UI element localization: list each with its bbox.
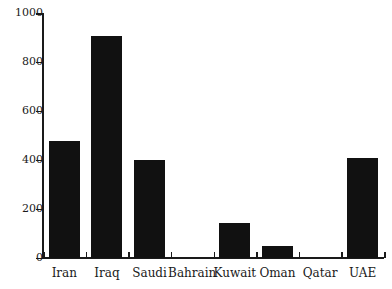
x-tick-mark	[341, 252, 343, 258]
y-axis-line	[42, 13, 44, 258]
y-tick-mark	[36, 62, 43, 64]
x-tick-label-iraq: Iraq	[94, 266, 119, 280]
x-tick-mark	[43, 252, 45, 258]
x-tick-mark	[214, 252, 216, 258]
x-tick-label-iran: Iran	[52, 266, 77, 280]
x-tick-label-kuwait: Kuwait	[214, 266, 257, 280]
y-tick-mark	[36, 111, 43, 113]
x-tick-label-uae: UAE	[349, 266, 376, 280]
bar-oman	[262, 246, 293, 258]
bar-iraq	[91, 36, 122, 258]
y-tick-mark	[36, 209, 43, 211]
x-tick-mark	[384, 252, 386, 258]
bar-chart: 02004006008001000 IranIraqSaudiBahrainKu…	[0, 0, 392, 289]
x-tick-mark	[256, 252, 258, 258]
bar-uae	[347, 158, 378, 258]
x-tick-label-qatar: Qatar	[303, 266, 338, 280]
bar-iran	[49, 141, 80, 258]
x-tick-mark	[128, 252, 130, 258]
x-tick-mark	[86, 252, 88, 258]
bar-kuwait	[219, 223, 250, 258]
y-tick-mark	[36, 258, 43, 260]
y-tick-mark	[36, 13, 43, 15]
x-tick-label-saudi: Saudi	[132, 266, 167, 280]
x-tick-label-bahrain: Bahrain	[168, 266, 216, 280]
y-tick-mark	[36, 160, 43, 162]
x-tick-mark	[171, 252, 173, 258]
x-tick-label-oman: Oman	[259, 266, 295, 280]
bar-saudi	[134, 160, 165, 258]
x-tick-mark	[299, 252, 301, 258]
